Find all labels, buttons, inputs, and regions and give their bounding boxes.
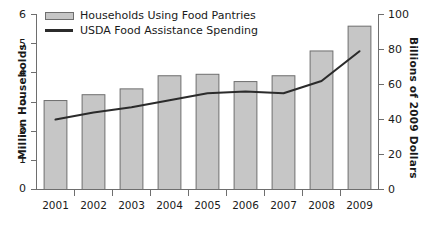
x-tick-2007: 2007	[264, 199, 304, 211]
x-tick-2009: 2009	[340, 199, 380, 211]
chart-figure: Million Households Billions of 2009 Doll…	[0, 0, 421, 232]
x-tick-2003: 2003	[112, 199, 152, 211]
x-tick-2002: 2002	[74, 199, 114, 211]
bar-2004	[158, 76, 181, 190]
x-tick-2004: 2004	[150, 199, 190, 211]
legend-bar-swatch	[45, 12, 73, 19]
bar-2001	[44, 101, 67, 190]
y-right-tick-100: 100	[388, 8, 414, 21]
y-right-tick-60: 60	[388, 78, 414, 91]
bar-series	[44, 26, 371, 189]
bar-2003	[120, 89, 143, 190]
y-right-tick-0: 0	[388, 183, 414, 196]
y-left-tick-6: 6	[6, 8, 26, 21]
bar-2002	[82, 95, 105, 190]
bar-2005	[196, 74, 219, 189]
y-right-tick-40: 40	[388, 113, 414, 126]
bar-2006	[234, 82, 257, 190]
x-tick-2008: 2008	[302, 199, 342, 211]
y-right-tick-20: 20	[388, 148, 414, 161]
y-left-tick-1: 1	[6, 153, 26, 166]
left-axis-ticks	[31, 15, 36, 190]
x-tick-2006: 2006	[226, 199, 266, 211]
y-right-tick-80: 80	[388, 43, 414, 56]
x-tick-2001: 2001	[36, 199, 76, 211]
y-left-tick-2: 2	[6, 124, 26, 137]
legend-markers	[45, 12, 73, 31]
right-axis-ticks	[379, 15, 384, 190]
y-left-tick-0: 0	[6, 182, 26, 195]
y-left-tick-3: 3	[6, 95, 26, 108]
y-left-tick-4: 4	[6, 66, 26, 79]
legend-label-households: Households Using Food Pantries	[80, 9, 256, 22]
legend-label-spending: USDA Food Assistance Spending	[80, 24, 258, 37]
x-axis-category-separators	[75, 189, 341, 196]
x-tick-2005: 2005	[188, 199, 228, 211]
y-left-tick-5: 5	[6, 37, 26, 50]
bar-2008	[310, 51, 333, 190]
